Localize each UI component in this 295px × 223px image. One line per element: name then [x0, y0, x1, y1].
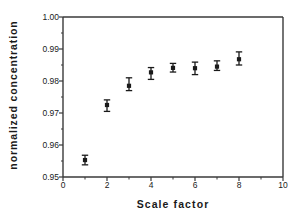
data-point-group — [82, 155, 88, 165]
data-marker — [83, 158, 87, 162]
data-marker — [171, 66, 175, 70]
data-point-group — [214, 61, 220, 71]
chart-figure: normalized concentration Scale factor 1.… — [0, 0, 295, 223]
data-point-group — [192, 62, 198, 74]
data-marker — [127, 84, 131, 88]
data-point-group — [126, 78, 132, 91]
data-point-group — [236, 52, 242, 65]
data-marker — [215, 65, 219, 69]
data-marker — [193, 66, 197, 70]
data-marker — [149, 70, 153, 74]
data-marker — [105, 103, 109, 107]
data-point-group — [104, 100, 110, 112]
data-point-group — [148, 68, 154, 80]
data-point-group — [170, 63, 176, 72]
data-marker — [237, 57, 241, 61]
plot-canvas — [0, 0, 295, 223]
